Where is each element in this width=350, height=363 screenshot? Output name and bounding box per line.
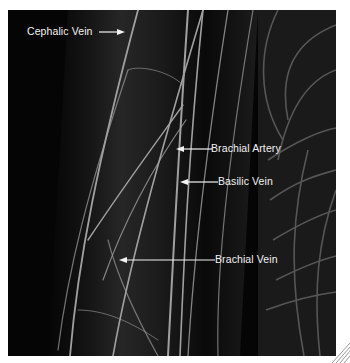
label-basilic-vein: Basilic Vein (218, 175, 273, 187)
arrow-right-icon (99, 27, 125, 37)
arrow-left-icon (180, 177, 218, 187)
label-cephalic-vein: Cephalic Vein (27, 25, 93, 37)
corner-decoration (328, 339, 350, 363)
vessel-illustration (8, 10, 336, 356)
label-brachial-vein: Brachial Vein (215, 253, 278, 265)
arrow-left-icon (119, 255, 215, 265)
anatomy-figure: Cephalic Vein Brachial Artery Basilic Ve… (8, 10, 336, 356)
label-brachial-artery: Brachial Artery (211, 142, 281, 154)
arrow-left-icon (176, 144, 212, 154)
